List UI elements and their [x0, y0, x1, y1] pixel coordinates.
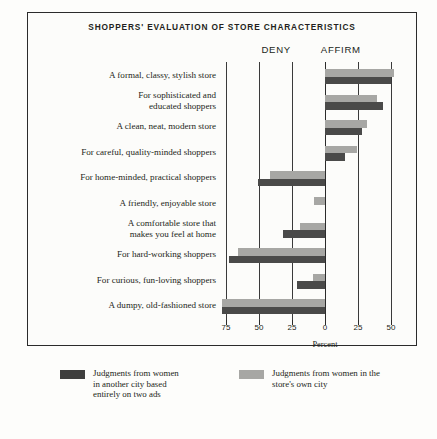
chart-title: SHOPPERS' EVALUATION OF STORE CHARACTERI…: [27, 22, 417, 32]
legend-item-other: Judgments from women in another city bas…: [60, 368, 179, 400]
figure-caption: [8, 428, 433, 438]
light-swatch-icon: [239, 370, 264, 379]
legend-item-own: Judgments from women in the store's own …: [239, 368, 380, 389]
figure-container: SHOPPERS' EVALUATION OF STORE CHARACTERI…: [0, 0, 437, 439]
legend-label-own: Judgments from women in the store's own …: [272, 368, 380, 389]
dark-swatch-icon: [60, 370, 85, 379]
legend-label-other: Judgments from women in another city bas…: [93, 368, 179, 400]
chart-frame: [27, 12, 417, 346]
chart-legend: Judgments from women in another city bas…: [27, 368, 417, 416]
